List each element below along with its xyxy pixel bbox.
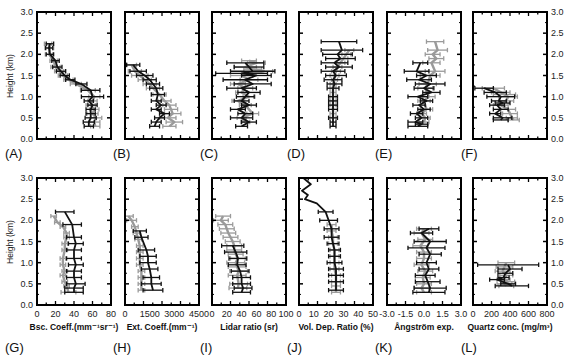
data-series-group (51, 210, 85, 295)
ytick-label: 0.0 (20, 134, 33, 144)
xtick-label: 40 (353, 309, 363, 319)
data-line-gray (420, 229, 425, 292)
ytick-label: 1.0 (20, 92, 33, 102)
ylabel-top-row: Height (km) (5, 54, 15, 98)
panel-letter: (G) (5, 340, 24, 355)
panel-letter: (C) (200, 146, 218, 161)
ytick-labels-left-bottom: 0.0 0.5 1.0 1.5 2.0 2.5 3.0 (20, 173, 33, 310)
xtick-label: 30 (338, 309, 348, 319)
xaxis-title: Bsc. Coeff.(mm⁻¹sr⁻¹) (30, 322, 119, 332)
xtick-label: 0.0 (418, 309, 431, 319)
ylabel-bottom-row: Height (km) (5, 220, 15, 264)
panel-letter: (A) (5, 146, 22, 161)
xtick-label: 20 (324, 309, 334, 319)
panel-j: 01020304050Vol. Dep. Ratio (%)(J) (287, 178, 378, 355)
ytick-labels-right-bottom: 0.0 0.5 1.0 1.5 2.0 2.5 3.0 (551, 173, 564, 310)
panel-c: (C) (200, 12, 286, 161)
panel-b: (B) (113, 12, 199, 161)
xaxis-title: Ångström exp. (394, 322, 454, 332)
ytick-label: 2.5 (20, 28, 33, 38)
xtick-label: 20 (50, 309, 60, 319)
xtick-label: 40 (237, 309, 247, 319)
panels-group: (A)(B)(C)(D)(E)(F)020406080Bsc. Coeff.(m… (5, 12, 555, 355)
xtick-label: 0 (34, 309, 39, 319)
ytick-label: 0.5 (551, 113, 564, 123)
xtick-label: 50 (368, 309, 378, 319)
xtick-label: 10 (309, 309, 319, 319)
xtick-label: 60 (87, 309, 97, 319)
ytick-label: 0.5 (551, 279, 564, 289)
ytick-label: 2.0 (20, 49, 33, 59)
data-series-group (127, 63, 183, 129)
xtick-label: 20 (222, 309, 232, 319)
xtick-label: 1.5 (436, 309, 449, 319)
panel-letter: (J) (287, 340, 302, 355)
panel-letter: (B) (113, 146, 130, 161)
ytick-label: 3.0 (551, 173, 564, 183)
ytick-label: 2.0 (20, 215, 33, 225)
xtick-label: 4500 (189, 309, 209, 319)
data-series-group (302, 178, 343, 295)
xtick-label: 40 (69, 309, 79, 319)
data-series-group (321, 39, 362, 128)
xtick-label: 0 (470, 309, 475, 319)
panel-k: -3.0-1.50.01.53.0Ångström exp.(K) (375, 178, 467, 355)
xtick-label: 3000 (164, 309, 184, 319)
xtick-label: 0 (296, 309, 301, 319)
ytick-label: 1.0 (551, 258, 564, 268)
xtick-label: 0 (209, 309, 214, 319)
xtick-label: 80 (106, 309, 116, 319)
ytick-label: 1.5 (20, 237, 33, 247)
data-series-group (123, 214, 162, 292)
data-line-black (302, 178, 336, 290)
panel-letter: (K) (375, 340, 392, 355)
data-series-group (404, 39, 447, 128)
panel-f: (F) (461, 12, 547, 161)
data-series-group (44, 42, 103, 129)
panel-h: 0150030004500Ext. Coeff.(mm⁻¹)(H) (113, 178, 209, 355)
panel-i: 020406080100Lidar ratio (sr)(I) (200, 178, 294, 355)
ytick-label: 1.5 (551, 71, 564, 81)
ytick-labels-left-top: 0.0 0.5 1.0 1.5 2.0 2.5 3.0 (20, 7, 33, 144)
plot-frame (125, 178, 199, 305)
xtick-label: 100 (278, 309, 293, 319)
ytick-label: 1.0 (551, 92, 564, 102)
panel-e: (E) (375, 12, 461, 161)
ytick-label: 0.0 (20, 300, 33, 310)
ytick-label: 0.0 (551, 134, 564, 144)
xtick-label: 3.0 (455, 309, 468, 319)
xaxis-title: Quartz conc. (mg/m³) (467, 322, 552, 332)
ytick-label: 0.0 (551, 300, 564, 310)
panel-letter: (E) (375, 146, 392, 161)
ytick-label: 1.0 (20, 258, 33, 268)
xtick-label: 1500 (140, 309, 160, 319)
xtick-label: 200 (484, 309, 499, 319)
ytick-label: 2.5 (551, 194, 564, 204)
ytick-label: 1.5 (551, 237, 564, 247)
xtick-label: 60 (251, 309, 261, 319)
xaxis-title: Vol. Dep. Ratio (%) (299, 322, 374, 332)
ytick-label: 3.0 (20, 7, 33, 17)
panel-letter: (I) (200, 340, 212, 355)
data-series-group (475, 86, 519, 122)
data-series-group (213, 214, 251, 295)
xtick-label: 800 (539, 309, 554, 319)
ytick-labels-right-top: 0.0 0.5 1.0 1.5 2.0 2.5 3.0 (551, 7, 564, 144)
panel-letter: (D) (287, 146, 305, 161)
data-series-group (216, 58, 275, 128)
xaxis-title: Lidar ratio (sr) (220, 322, 278, 332)
data-series-group (478, 260, 539, 288)
xtick-label: 0 (122, 309, 127, 319)
panel-l: 0200400600800Quartz conc. (mg/m³)(L) (461, 178, 555, 355)
ytick-label: 1.5 (20, 71, 33, 81)
xtick-label: -1.5 (398, 309, 414, 319)
figure-canvas: (A)(B)(C)(D)(E)(F)020406080Bsc. Coeff.(m… (0, 0, 569, 361)
panel-letter: (L) (461, 340, 477, 355)
xtick-label: -3.0 (379, 309, 395, 319)
ytick-label: 2.5 (20, 194, 33, 204)
panel-letter: (F) (461, 146, 478, 161)
plot-frame (212, 178, 286, 305)
ytick-label: 2.0 (551, 215, 564, 225)
panel-d: (D) (287, 12, 373, 161)
ytick-label: 3.0 (20, 173, 33, 183)
